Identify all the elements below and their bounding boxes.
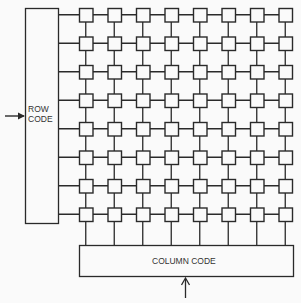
matrix-cell: [80, 208, 94, 222]
matrix-cell: [137, 94, 151, 108]
matrix-cell: [165, 151, 179, 165]
matrix-cell: [194, 66, 208, 80]
matrix-cell: [279, 208, 293, 222]
matrix-cell: [222, 151, 236, 165]
grid-cells: [80, 9, 293, 222]
matrix-cell: [222, 208, 236, 222]
matrix-cell: [279, 37, 293, 51]
matrix-diagram: ROW CODE COLUMN CODE: [0, 0, 301, 303]
matrix-cell: [222, 9, 236, 23]
matrix-cell: [137, 123, 151, 137]
matrix-cell: [80, 37, 94, 51]
matrix-cell: [194, 151, 208, 165]
matrix-cell: [194, 180, 208, 194]
row-code-label-line1: ROW: [28, 104, 49, 114]
matrix-cell: [279, 180, 293, 194]
matrix-cell: [80, 94, 94, 108]
matrix-cell: [194, 9, 208, 23]
matrix-cell: [251, 66, 265, 80]
matrix-cell: [165, 208, 179, 222]
matrix-cell: [251, 180, 265, 194]
matrix-cell: [251, 151, 265, 165]
matrix-cell: [137, 151, 151, 165]
matrix-cell: [108, 37, 122, 51]
matrix-cell: [251, 37, 265, 51]
matrix-cell: [165, 123, 179, 137]
matrix-cell: [108, 66, 122, 80]
matrix-cell: [165, 180, 179, 194]
matrix-cell: [194, 94, 208, 108]
matrix-cell: [251, 94, 265, 108]
column-input-arrow-icon: [182, 278, 190, 298]
matrix-cell: [194, 37, 208, 51]
matrix-cell: [80, 9, 94, 23]
matrix-cell: [137, 66, 151, 80]
column-code-label: COLUMN CODE: [152, 256, 216, 266]
matrix-cell: [222, 37, 236, 51]
matrix-cell: [279, 94, 293, 108]
matrix-cell: [137, 9, 151, 23]
row-input-arrow-icon: [5, 113, 25, 120]
matrix-cell: [137, 208, 151, 222]
matrix-cell: [108, 180, 122, 194]
matrix-cell: [165, 9, 179, 23]
matrix-cell: [108, 94, 122, 108]
matrix-cell: [194, 208, 208, 222]
matrix-cell: [108, 9, 122, 23]
matrix-cell: [108, 151, 122, 165]
matrix-cell: [251, 208, 265, 222]
matrix-cell: [251, 123, 265, 137]
matrix-cell: [108, 208, 122, 222]
matrix-cell: [194, 123, 208, 137]
matrix-cell: [165, 94, 179, 108]
matrix-cell: [165, 37, 179, 51]
matrix-cell: [222, 123, 236, 137]
matrix-cell: [165, 66, 179, 80]
matrix-cell: [80, 123, 94, 137]
matrix-cell: [80, 180, 94, 194]
matrix-cell: [80, 151, 94, 165]
matrix-cell: [279, 66, 293, 80]
matrix-cell: [222, 66, 236, 80]
matrix-cell: [251, 9, 265, 23]
matrix-cell: [108, 123, 122, 137]
matrix-cell: [222, 180, 236, 194]
matrix-cell: [222, 94, 236, 108]
matrix-cell: [279, 9, 293, 23]
matrix-cell: [137, 37, 151, 51]
row-code-label-line2: CODE: [28, 114, 53, 124]
matrix-cell: [80, 66, 94, 80]
matrix-cell: [137, 180, 151, 194]
matrix-cell: [279, 123, 293, 137]
matrix-cell: [279, 151, 293, 165]
